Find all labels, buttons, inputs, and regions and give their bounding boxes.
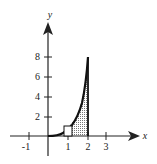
y-tick-label: 2: [35, 111, 40, 122]
chart: -1 1 2 3 8 6 4 2 x y: [0, 0, 157, 164]
x-tick-label: -1: [22, 141, 30, 152]
x-tick-label: 2: [86, 141, 91, 152]
y-tick-label: 4: [35, 91, 40, 102]
y-axis-label: y: [47, 9, 53, 20]
x-tick-label: 1: [66, 141, 71, 152]
y-tick-label: 6: [35, 71, 40, 82]
x-tick-label: 3: [104, 141, 109, 152]
x-axis-label: x: [142, 130, 148, 141]
y-tick-label: 8: [35, 51, 40, 62]
shaded-region: [68, 57, 88, 136]
representative-rectangle: [64, 126, 72, 136]
